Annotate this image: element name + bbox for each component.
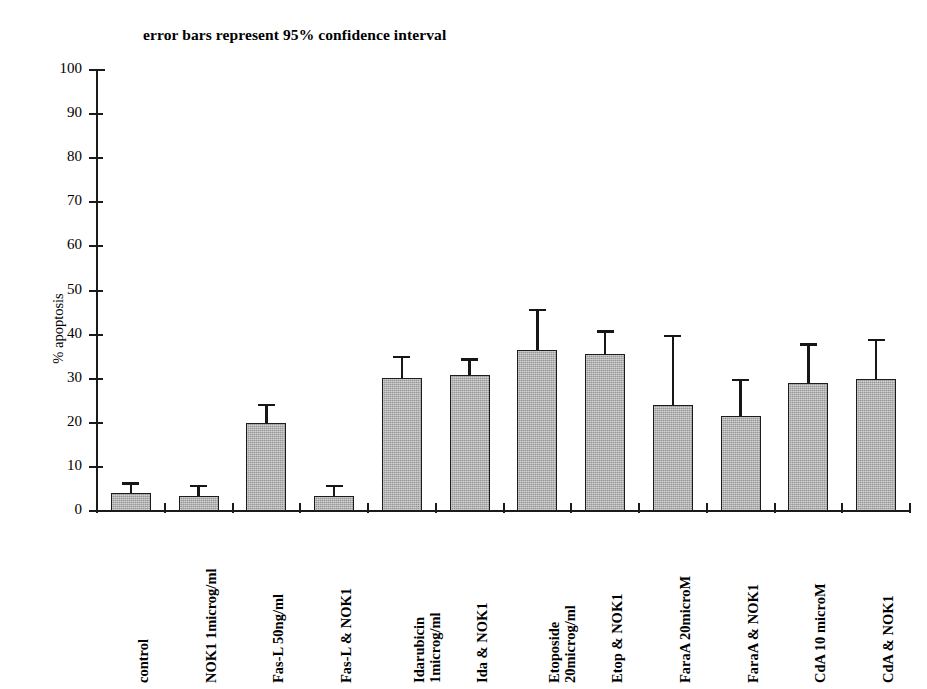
- bar-4: [382, 378, 422, 511]
- x-label-line1-7: Etop & NOK1: [609, 594, 625, 683]
- y-tick-label-90: 90: [36, 105, 82, 120]
- error-bar-stem-8: [672, 335, 674, 406]
- error-bar-cap-6: [529, 309, 546, 311]
- x-tick-0: [96, 503, 98, 513]
- y-tick-label-20: 20: [36, 414, 82, 429]
- error-bar-cap-1: [190, 485, 207, 487]
- x-label-line1-5: Ida & NOK1: [474, 602, 490, 683]
- x-tick-2: [232, 503, 234, 513]
- x-label-7: Etop & NOK1: [609, 594, 625, 683]
- bar-8: [653, 405, 693, 511]
- apoptosis-bar-chart: error bars represent 95% confidence inte…: [0, 0, 927, 689]
- y-tick-80: [89, 157, 103, 159]
- error-bar-cap-7: [597, 330, 614, 332]
- bar-0: [111, 493, 151, 511]
- x-label-line1-6: Etoposide: [546, 622, 562, 683]
- bar-9: [721, 416, 761, 511]
- y-tick-label-30: 30: [36, 370, 82, 385]
- error-bar-stem-11: [875, 339, 877, 379]
- error-bar-stem-10: [807, 343, 809, 383]
- y-tick-label-100: 100: [36, 61, 82, 76]
- x-label-0: control: [135, 639, 151, 683]
- bar-10: [788, 383, 828, 511]
- x-label-3: Fas-L & NOK1: [338, 588, 354, 683]
- x-label-11: CdA & NOK1: [880, 595, 896, 683]
- error-bar-cap-0: [122, 482, 139, 484]
- x-label-8: FaraA 20microM: [677, 576, 693, 683]
- y-tick-70: [89, 201, 103, 203]
- x-label-line1-9: FaraA & NOK1: [745, 584, 761, 683]
- x-label-line1-4: Idarubicin: [411, 617, 427, 683]
- y-tick-label-60: 60: [36, 237, 82, 252]
- x-tick-8: [638, 503, 640, 513]
- x-label-line1-11: CdA & NOK1: [880, 595, 896, 683]
- error-bar-stem-6: [536, 309, 538, 350]
- bar-11: [856, 379, 896, 511]
- x-tick-12: [909, 503, 911, 513]
- x-tick-5: [435, 503, 437, 513]
- x-label-6: Etoposide20microg/ml: [546, 605, 578, 683]
- y-tick-label-80: 80: [36, 149, 82, 164]
- error-bar-cap-10: [800, 343, 817, 345]
- x-label-9: FaraA & NOK1: [745, 584, 761, 683]
- error-bar-cap-2: [258, 404, 275, 406]
- x-label-line1-10: CdA 10 microM: [812, 583, 828, 683]
- y-tick-label-0: 0: [36, 502, 82, 517]
- x-label-5: Ida & NOK1: [474, 602, 490, 683]
- error-bar-stem-2: [265, 404, 267, 423]
- chart-title: error bars represent 95% confidence inte…: [143, 26, 446, 44]
- bar-5: [450, 375, 490, 511]
- y-tick-label-10: 10: [36, 458, 82, 473]
- error-bar-cap-4: [393, 356, 410, 358]
- x-label-line2-4: 1microg/ml: [427, 612, 443, 683]
- error-bar-cap-9: [732, 379, 749, 381]
- y-tick-20: [89, 422, 103, 424]
- x-label-10: CdA 10 microM: [812, 583, 828, 683]
- y-tick-60: [89, 245, 103, 247]
- error-bar-cap-8: [664, 335, 681, 337]
- x-tick-6: [503, 503, 505, 513]
- y-tick-100: [89, 69, 103, 71]
- bar-1: [179, 496, 219, 511]
- error-bar-stem-4: [401, 356, 403, 378]
- y-tick-30: [89, 378, 103, 380]
- x-label-line1-2: Fas-L 50ng/ml: [270, 594, 286, 683]
- x-label-4: Idarubicin1microg/ml: [411, 612, 443, 683]
- y-tick-10: [89, 466, 103, 468]
- x-tick-1: [164, 503, 166, 513]
- bar-2: [246, 423, 286, 511]
- x-label-line1-8: FaraA 20microM: [677, 576, 693, 683]
- error-bar-stem-7: [604, 330, 606, 354]
- error-bar-cap-11: [868, 339, 885, 341]
- error-bar-stem-5: [468, 358, 470, 375]
- x-label-line2-6: 20microg/ml: [562, 605, 578, 683]
- error-bar-stem-9: [739, 379, 741, 416]
- error-bar-cap-5: [461, 358, 478, 360]
- y-tick-90: [89, 113, 103, 115]
- x-label-line1-3: Fas-L & NOK1: [338, 588, 354, 683]
- y-tick-label-40: 40: [36, 326, 82, 341]
- x-tick-7: [570, 503, 572, 513]
- y-tick-label-70: 70: [36, 193, 82, 208]
- y-tick-label-50: 50: [36, 282, 82, 297]
- bar-6: [517, 350, 557, 511]
- x-tick-10: [774, 503, 776, 513]
- x-label-1: NOK1 1microg/ml: [203, 568, 219, 683]
- y-tick-50: [89, 290, 103, 292]
- error-bar-cap-3: [326, 485, 343, 487]
- y-tick-40: [89, 334, 103, 336]
- x-tick-9: [706, 503, 708, 513]
- x-label-line1-1: NOK1 1microg/ml: [203, 568, 219, 683]
- bar-7: [585, 354, 625, 511]
- x-tick-3: [299, 503, 301, 513]
- x-tick-4: [367, 503, 369, 513]
- x-tick-11: [841, 503, 843, 513]
- bar-3: [314, 496, 354, 511]
- x-label-2: Fas-L 50ng/ml: [270, 594, 286, 683]
- x-label-line1-0: control: [135, 639, 151, 683]
